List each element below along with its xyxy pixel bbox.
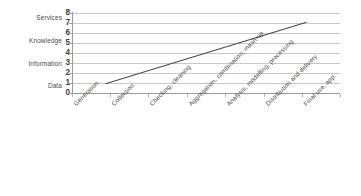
x-tick-mark-1 [110, 94, 111, 97]
x-tick-mark-2 [148, 94, 149, 97]
x-tick-mark-0 [72, 94, 73, 97]
x-tick-mark-6 [302, 94, 303, 97]
line-chart: Services Knowledge Information Data 8 7 … [0, 0, 361, 196]
x-tick-mark-3 [187, 94, 188, 97]
x-tick-mark-4 [225, 94, 226, 97]
x-tick-mark-5 [264, 94, 265, 97]
x-tick-mark-7 [340, 94, 341, 97]
series-line-value-chain [72, 12, 340, 94]
y-axis-tick-labels: 8 7 6 5 4 3 2 1 0 [52, 0, 70, 100]
